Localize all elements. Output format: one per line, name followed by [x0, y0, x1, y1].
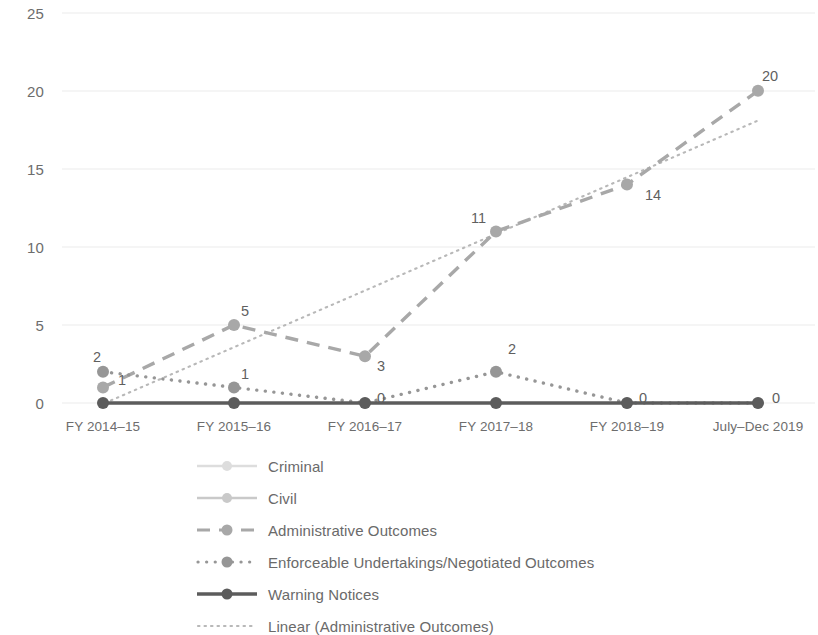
legend-label-administrative-outcomes: Administrative Outcomes: [268, 522, 437, 539]
administrative-outcomes-point: [359, 350, 371, 362]
administrative-outcomes-point: [97, 381, 109, 393]
linear-trendline-swatch: [196, 617, 258, 635]
x-tick-july-dec-2019: July–Dec 2019: [688, 419, 818, 434]
enforceable-undertakings-point: [97, 366, 109, 378]
criminal-swatch: [196, 457, 258, 475]
data-label-administrative-3: 11: [471, 210, 486, 226]
legend-item-criminal[interactable]: Criminal: [196, 450, 756, 482]
warning-notices-point: [228, 397, 240, 409]
administrative-outcomes-point: [621, 179, 633, 191]
warning-notices-swatch: [196, 585, 258, 603]
enforceable-undertakings-point: [228, 381, 240, 393]
data-label-administrative-0: 1: [118, 372, 126, 388]
civil-swatch: [196, 489, 258, 507]
x-tick-fy-2015-16: FY 2015–16: [164, 419, 304, 434]
data-label-administrative-4: 14: [645, 187, 661, 203]
x-tick-fy-2018-19: FY 2018–19: [557, 419, 697, 434]
legend-item-linear-trendline[interactable]: Linear (Administrative Outcomes): [196, 610, 756, 635]
data-label-warning-5: 0: [772, 390, 780, 406]
data-label-administrative-2: 3: [377, 358, 385, 374]
legend-item-civil[interactable]: Civil: [196, 482, 756, 514]
chart-container: 25 20 15 10 5 0: [0, 0, 818, 635]
legend-label-warning-notices: Warning Notices: [268, 586, 379, 603]
series-warning-notices: [97, 397, 764, 409]
x-tick-fy-2016-17: FY 2016–17: [295, 419, 435, 434]
legend-label-enforceable-undertakings: Enforceable Undertakings/Negotiated Outc…: [268, 554, 594, 571]
data-label-enforceable-3: 2: [508, 341, 516, 357]
administrative-outcomes-point: [228, 319, 240, 331]
data-label-administrative-1: 5: [241, 303, 249, 319]
administrative-outcomes-point: [490, 225, 502, 237]
legend-label-civil: Civil: [268, 490, 297, 507]
x-tick-fy-2014-15: FY 2014–15: [33, 419, 173, 434]
warning-notices-point: [752, 397, 764, 409]
chart-legend: Criminal Civil Administrative Outcomes: [196, 450, 756, 635]
enforceable-undertakings-swatch: [196, 553, 258, 571]
administrative-outcomes-path: [103, 91, 758, 388]
enforceable-undertakings-point: [490, 366, 502, 378]
x-tick-fy-2017-18: FY 2017–18: [426, 419, 566, 434]
legend-item-administrative-outcomes[interactable]: Administrative Outcomes: [196, 514, 756, 546]
warning-notices-point: [359, 397, 371, 409]
data-label-enforceable-1: 1: [241, 366, 249, 382]
warning-notices-point: [97, 397, 109, 409]
legend-label-linear-trendline: Linear (Administrative Outcomes): [268, 618, 494, 635]
legend-label-criminal: Criminal: [268, 458, 324, 475]
administrative-outcomes-swatch: [196, 521, 258, 539]
administrative-outcomes-point: [752, 85, 764, 97]
warning-notices-point: [490, 397, 502, 409]
legend-item-warning-notices[interactable]: Warning Notices: [196, 578, 756, 610]
data-label-enforceable-0: 2: [93, 349, 101, 365]
legend-item-enforceable-undertakings[interactable]: Enforceable Undertakings/Negotiated Outc…: [196, 546, 756, 578]
series-administrative-outcomes: [97, 85, 764, 394]
warning-notices-point: [621, 397, 633, 409]
data-label-warning-2: 0: [377, 390, 385, 406]
gridlines: [62, 13, 815, 403]
enforceable-undertakings-path: [103, 372, 758, 403]
data-label-warning-4: 0: [639, 390, 647, 406]
data-label-administrative-5: 20: [762, 68, 778, 84]
